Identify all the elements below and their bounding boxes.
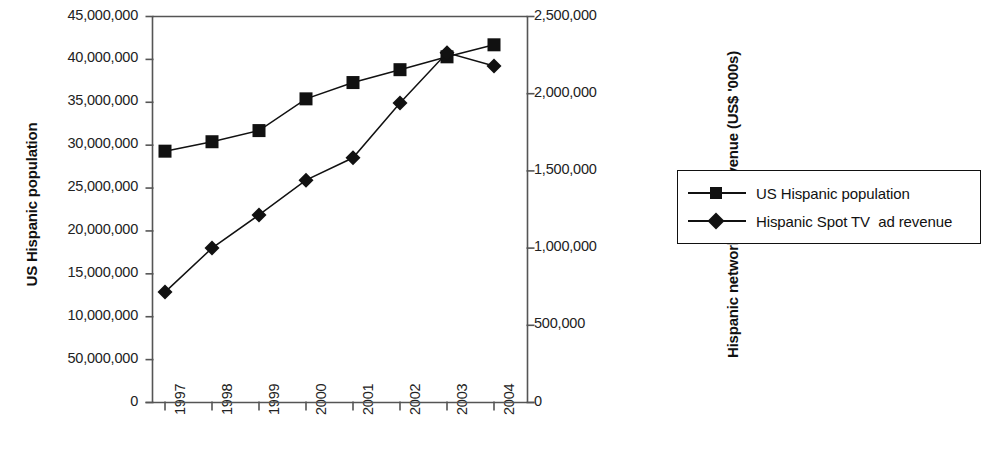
chart-legend: US Hispanic population Hispanic Spot TV … — [677, 170, 981, 244]
chart-figure: US Hispanic population Hispanic network … — [0, 0, 983, 461]
diamond-marker-icon — [688, 212, 746, 230]
legend-label-population: US Hispanic population — [746, 185, 910, 202]
legend-label-revenue: Hispanic Spot TV ad revenue — [746, 213, 952, 230]
legend-item-population: US Hispanic population — [678, 179, 980, 207]
square-marker-icon — [688, 184, 746, 202]
legend-item-revenue: Hispanic Spot TV ad revenue — [678, 207, 980, 235]
